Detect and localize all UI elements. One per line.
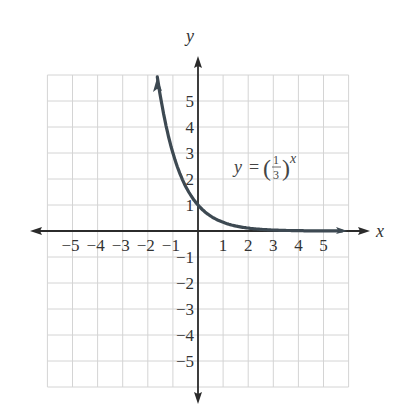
equation-equals: = bbox=[249, 157, 259, 177]
svg-text:−5: −5 bbox=[176, 352, 194, 371]
svg-text:1: 1 bbox=[219, 236, 228, 255]
svg-text:−3: −3 bbox=[112, 236, 130, 255]
svg-text:−5: −5 bbox=[61, 236, 79, 255]
curve-arrow-up-icon bbox=[153, 78, 162, 92]
svg-text:4: 4 bbox=[186, 118, 195, 137]
svg-text:−4: −4 bbox=[176, 326, 195, 345]
svg-text:−4: −4 bbox=[87, 236, 106, 255]
svg-text:3: 3 bbox=[186, 144, 195, 163]
svg-text:−2: −2 bbox=[176, 274, 194, 293]
equation-numerator: 1 bbox=[273, 153, 279, 167]
svg-text:2: 2 bbox=[244, 236, 253, 255]
equation-left-paren: ( bbox=[263, 155, 271, 181]
equation-right-paren: ) bbox=[282, 155, 290, 181]
svg-text:−3: −3 bbox=[176, 300, 194, 319]
svg-text:5: 5 bbox=[186, 92, 195, 111]
svg-text:−1: −1 bbox=[176, 248, 194, 267]
svg-text:4: 4 bbox=[294, 236, 303, 255]
svg-text:3: 3 bbox=[269, 236, 278, 255]
svg-text:−2: −2 bbox=[137, 236, 155, 255]
x-axis-label: x bbox=[375, 221, 384, 241]
svg-text:5: 5 bbox=[319, 236, 328, 255]
exponential-graph: −5−4−3−2−11234554321−1−2−3−4−5 y x y = (… bbox=[0, 0, 408, 418]
equation-label: y = ( 1 3 ) x bbox=[232, 151, 297, 182]
equation-y: y bbox=[232, 157, 242, 177]
equation-denominator: 3 bbox=[273, 168, 279, 182]
equation-exponent: x bbox=[289, 151, 297, 166]
y-axis-label: y bbox=[184, 26, 194, 46]
